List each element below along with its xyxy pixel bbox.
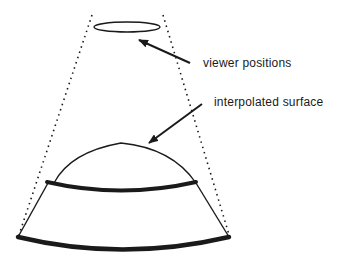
viewer-positions-label: viewer positions <box>203 56 292 70</box>
lower-thick-band <box>18 237 229 250</box>
dotted-line-left <box>18 15 92 238</box>
viewer-positions-ellipse <box>94 22 160 32</box>
arrow-to-interpolated-surface <box>149 104 202 143</box>
interpolated-surface-dome <box>54 143 196 183</box>
arrow-to-viewer-positions <box>139 40 190 63</box>
cone-surface-diagram <box>0 0 341 265</box>
dotted-view-cone-lines <box>18 15 230 238</box>
interpolated-surface-label: interpolated surface <box>214 95 323 109</box>
upper-thick-band <box>47 182 196 191</box>
